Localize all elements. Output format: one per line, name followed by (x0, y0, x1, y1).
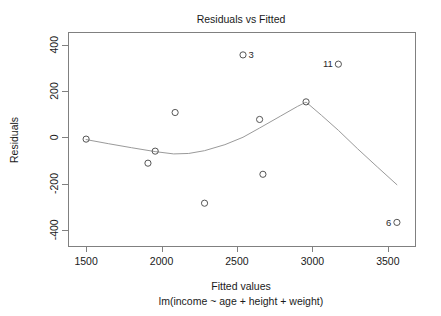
x-tick-label: 3500 (376, 255, 400, 267)
chart-title: Residuals vs Fitted (197, 13, 286, 25)
y-axis-ticks: -400-2000200400 (48, 36, 68, 241)
x-tick-label: 2500 (225, 255, 249, 267)
y-tick-label: -400 (49, 219, 61, 240)
x-tick-label: 1500 (74, 255, 98, 267)
lowess-smooth-curve (86, 102, 397, 185)
chart-root: Residuals vs Fitted 15002000250030003500… (0, 0, 441, 316)
data-point (335, 61, 341, 67)
plot-box-frame (69, 33, 416, 247)
data-point-label: 3 (249, 49, 254, 60)
data-point (240, 52, 246, 58)
y-tick-label: 0 (49, 134, 61, 140)
data-point (145, 160, 151, 166)
data-point-label: 11 (323, 58, 333, 69)
x-axis-ticks: 15002000250030003500 (74, 246, 399, 267)
chart-title-group: Residuals vs Fitted (197, 13, 286, 25)
data-point (201, 200, 207, 206)
x-tick-label: 3000 (301, 255, 325, 267)
y-tick-label: 400 (49, 36, 61, 54)
data-point-label: 6 (386, 217, 391, 228)
data-points-group (83, 52, 400, 226)
chart-subtitle: lm(income ~ age + height + weight) (159, 295, 323, 307)
axis-titles-group: Fitted values lm(income ~ age + height +… (8, 117, 323, 307)
data-point (172, 109, 178, 115)
data-point (257, 116, 263, 122)
x-tick-label: 2000 (150, 255, 174, 267)
y-axis-title: Residuals (8, 117, 20, 163)
residuals-vs-fitted-plot: Residuals vs Fitted 15002000250030003500… (0, 0, 441, 316)
y-tick-label: 200 (48, 82, 60, 100)
smooth-line (86, 102, 397, 185)
data-point (394, 219, 400, 225)
plot-frame (69, 33, 416, 247)
y-tick-label: -200 (49, 173, 61, 194)
point-labels-group: 3116 (249, 49, 392, 228)
data-point (260, 171, 266, 177)
x-axis-title: Fitted values (211, 280, 271, 292)
